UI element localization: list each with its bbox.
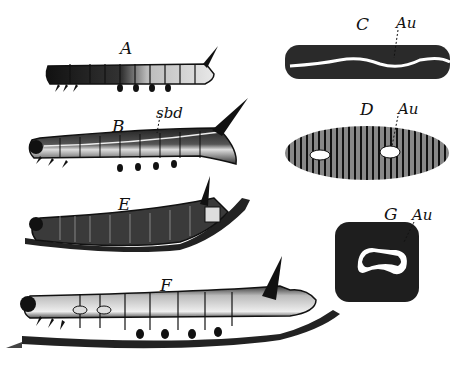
- caterpillar-b: [29, 98, 248, 172]
- annotation-au-d: Au: [398, 102, 419, 117]
- illustration-canvas: [0, 0, 463, 374]
- label-d: D: [360, 101, 374, 118]
- label-c: C: [356, 16, 369, 33]
- segment-detail-d: [285, 116, 449, 180]
- label-g: G: [384, 206, 398, 223]
- label-a: A: [120, 40, 132, 57]
- annotation-au-g: Au: [412, 208, 433, 223]
- label-f: F: [160, 277, 172, 294]
- label-b: B: [112, 118, 125, 135]
- caterpillar-f-on-twig: [6, 256, 340, 348]
- segment-detail-c: [285, 30, 450, 79]
- annotation-sbd: sbd: [156, 106, 183, 121]
- spot-detail-g: [335, 222, 419, 302]
- caterpillar-e-on-twig: [25, 176, 250, 252]
- label-e: E: [118, 196, 130, 213]
- annotation-au-c: Au: [396, 16, 417, 31]
